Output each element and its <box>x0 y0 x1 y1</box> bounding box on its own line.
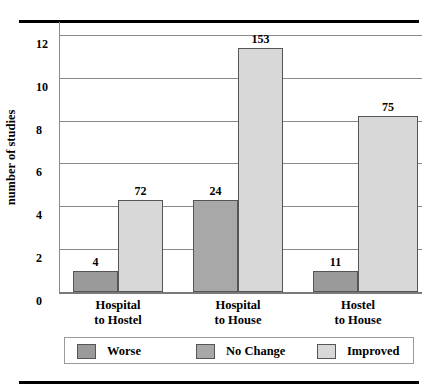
y-tick-label-12: 12 <box>36 38 48 50</box>
legend-item-worse[interactable]: Worse <box>77 343 141 359</box>
bar-hostel-to-house-worse <box>313 271 358 292</box>
chart-legend: WorseNo ChangeImproved <box>64 337 414 364</box>
plot-area: 472241531175 <box>59 22 422 293</box>
x-category-label-hospital-to-house: Hospitalto House <box>168 298 308 328</box>
legend-swatch-icon <box>196 344 215 359</box>
legend-swatch-icon <box>317 344 336 359</box>
bottom-divider-rule <box>19 381 419 384</box>
y-tick-label-10: 10 <box>36 81 48 93</box>
bar-hostel-to-house-improved <box>358 116 418 292</box>
legend-label: No Change <box>226 344 285 359</box>
legend-label: Worse <box>107 344 141 359</box>
bar-value-label-4: 4 <box>73 256 118 268</box>
bar-value-label-153: 153 <box>238 33 283 45</box>
legend-item-improved[interactable]: Improved <box>317 343 400 359</box>
bar-value-label-72: 72 <box>118 185 163 197</box>
legend-label: Improved <box>347 344 400 359</box>
chart-figure: number of studies 472241531175 024681012… <box>0 0 438 392</box>
bar-hospital-to-hostel-worse <box>73 271 118 292</box>
x-category-label-hospital-to-hostel: Hospitalto Hostel <box>48 298 188 328</box>
x-category-label-line: Hospital <box>168 298 308 313</box>
bar-value-label-75: 75 <box>358 101 418 113</box>
bar-hospital-to-hostel-improved <box>118 200 163 292</box>
x-category-label-line: to House <box>168 313 308 328</box>
y-tick-label-0: 0 <box>36 295 42 307</box>
y-tick-label-2: 2 <box>36 252 42 264</box>
legend-swatch-icon <box>77 344 96 359</box>
x-category-label-line: to House <box>288 313 428 328</box>
y-tick-label-6: 6 <box>36 166 42 178</box>
y-axis-title: number of studies <box>4 93 19 223</box>
bar-value-label-11: 11 <box>313 256 358 268</box>
bar-hospital-to-house-improved <box>238 48 283 292</box>
y-tick-label-4: 4 <box>36 209 42 221</box>
x-category-label-line: to Hostel <box>48 313 188 328</box>
x-category-label-hostel-to-house: Hostelto House <box>288 298 428 328</box>
x-category-label-line: Hostel <box>288 298 428 313</box>
y-tick-label-8: 8 <box>36 124 42 136</box>
x-category-label-line: Hospital <box>48 298 188 313</box>
bar-hospital-to-house-no-change <box>193 200 238 292</box>
bar-value-label-24: 24 <box>193 185 238 197</box>
legend-item-no-change[interactable]: No Change <box>196 343 285 359</box>
